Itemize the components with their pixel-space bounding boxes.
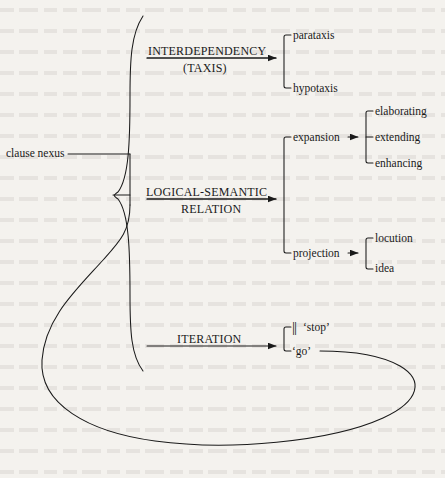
system-label-iteration: ITERATION [177,333,241,345]
system-label-logical-semantic-line1: LOGICAL-SEMANTIC [146,186,267,198]
term-extending: extending [375,132,420,144]
term-hypotaxis: hypotaxis [293,83,338,95]
iteration-term-bracket [284,327,291,351]
diagram-page: clause nexus INTERDEPENDENCY (TAXIS) par… [0,0,445,478]
logical-semantic-term-bracket [284,137,291,253]
system-label-interdependency-line2: (TAXIS) [183,62,227,74]
projection-term-bracket [366,238,373,269]
iteration-recursion-loop [42,205,415,445]
system-grouping-brace [114,16,143,371]
double-bar-glyph-icon: || [292,320,296,335]
interdependency-term-bracket [284,35,291,88]
term-stop: ‘stop’ [303,322,330,334]
root-label: clause nexus [6,148,64,160]
system-label-logical-semantic-line2: RELATION [181,203,241,215]
term-idea: idea [375,263,394,275]
term-expansion: expansion [293,132,340,144]
term-parataxis: parataxis [293,30,335,42]
term-projection: projection [293,248,340,260]
term-go: ‘go’ [292,346,311,358]
term-elaborating: elaborating [375,106,427,118]
system-label-interdependency-line1: INTERDEPENDENCY [148,45,266,57]
term-enhancing: enhancing [375,158,422,170]
term-locution: locution [375,233,413,245]
